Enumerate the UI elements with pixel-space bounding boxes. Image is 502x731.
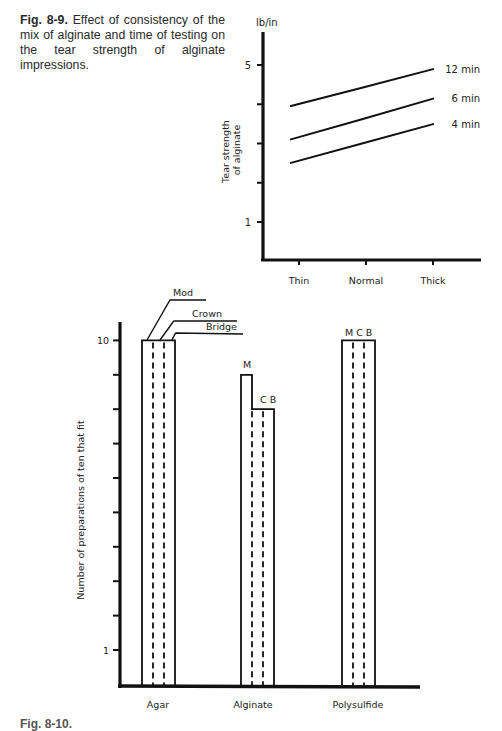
bar-outline xyxy=(342,340,375,686)
series-label: 12 min xyxy=(445,64,480,75)
y-tick-label: 5 xyxy=(245,60,251,71)
y-axis-label: Number of preparations of ten that fit xyxy=(75,420,86,600)
x-tick-label: Thin xyxy=(288,275,309,286)
bar-outline xyxy=(142,340,175,686)
y-tick-label: 1 xyxy=(103,645,109,656)
label-mod: Mod xyxy=(173,287,193,298)
bar-outline xyxy=(241,375,274,686)
caption-label: Fig. 8-10. xyxy=(20,717,72,731)
x-tick-label: Polysulfide xyxy=(333,699,384,710)
x-tick-label: Normal xyxy=(349,275,383,286)
tear-strength-line-chart: lb/in 15 ThinNormalThick 12 min6 min4 mi… xyxy=(220,17,481,286)
bar-group-agar xyxy=(142,340,175,686)
series-line xyxy=(290,69,434,106)
series-line xyxy=(290,98,434,139)
label-alginate-m: M xyxy=(243,359,251,370)
series-label: 4 min xyxy=(452,119,480,130)
x-tick-label: Alginate xyxy=(233,699,272,710)
label-alginate-cb: C B xyxy=(260,394,276,405)
label-polysulfide-mcb: M C B xyxy=(345,327,372,338)
x-tick-label: Thick xyxy=(419,275,446,286)
fit-bar-chart: 110 AgarAlginatePolysulfide Number of pr… xyxy=(75,287,420,710)
series-label: 6 min xyxy=(452,93,480,104)
x-tick-label: Agar xyxy=(147,699,169,710)
y-tick-label: 1 xyxy=(245,217,251,228)
bar-group-polysulfide xyxy=(342,340,375,686)
y-axis-label: Tear strength of alginate xyxy=(220,117,242,184)
label-crown: Crown xyxy=(192,308,222,319)
series-line xyxy=(290,124,434,163)
agar-leader-lines xyxy=(147,300,243,340)
x-axis xyxy=(118,686,420,687)
figure-caption-8-10: Fig. 8-10. xyxy=(20,717,72,731)
y-unit-label: lb/in xyxy=(256,17,278,28)
label-bridge: Bridge xyxy=(206,321,237,332)
bar-group-alginate xyxy=(241,375,274,686)
y-tick-label: 10 xyxy=(97,335,109,346)
